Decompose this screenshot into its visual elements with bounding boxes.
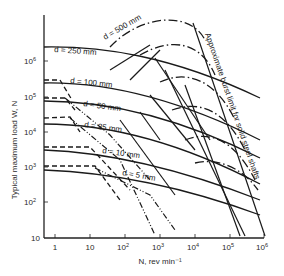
svg-text:103: 103 xyxy=(24,162,36,172)
svg-text:104: 104 xyxy=(187,242,199,252)
svg-text:102: 102 xyxy=(117,242,129,252)
label-d100: d = 100 mm xyxy=(70,76,114,89)
label-d250: d = 250 mm xyxy=(54,45,97,57)
bearing-load-chart: 1 10 102 103 104 105 106 10 102 103 104 … xyxy=(0,0,284,276)
arc-2 xyxy=(140,45,215,75)
svg-text:1: 1 xyxy=(53,243,58,252)
svg-text:105: 105 xyxy=(222,242,234,252)
label-d25: d = 25 mm xyxy=(84,120,123,134)
x-tick-labels: 1 10 102 103 104 105 106 xyxy=(53,242,268,252)
solid-curves xyxy=(44,47,260,215)
label-d50: d = 50 mm xyxy=(83,99,122,113)
svg-text:105: 105 xyxy=(24,92,36,102)
svg-text:10: 10 xyxy=(86,243,95,252)
x-axis-title: N, rev min⁻¹ xyxy=(138,257,181,266)
svg-text:10: 10 xyxy=(31,234,40,243)
svg-text:104: 104 xyxy=(24,127,36,137)
curve-labels: d = 500 mm d = 250 mm d = 100 mm d = 50 … xyxy=(54,13,157,183)
svg-text:102: 102 xyxy=(24,197,36,207)
dash-dot-dot-curves xyxy=(65,98,175,235)
svg-text:106: 106 xyxy=(24,56,36,66)
svg-text:106: 106 xyxy=(256,242,268,252)
svg-text:103: 103 xyxy=(152,242,164,252)
y-tick-labels: 10 102 103 104 105 106 xyxy=(24,56,41,243)
dashed-curves xyxy=(44,80,130,200)
y-axis-title: Typical maximum load W, N xyxy=(10,100,19,199)
label-d10: d = 10 mm xyxy=(102,146,141,160)
